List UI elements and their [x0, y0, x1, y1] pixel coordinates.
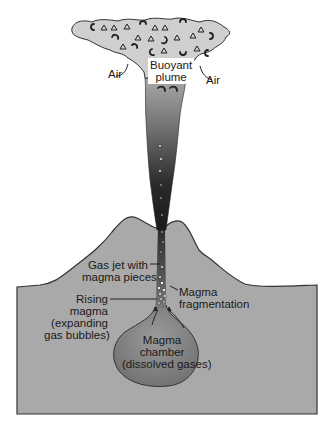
- label-line: magma pieces: [82, 271, 148, 283]
- label-line: Gas jet with: [82, 259, 148, 271]
- label-line: Magma: [122, 334, 202, 346]
- label-line: Buoyant: [150, 59, 192, 71]
- label-line: gas bubbles): [44, 329, 108, 341]
- gas-jet-label: Gas jet with magma pieces: [82, 259, 148, 283]
- label-line: (dissolved gases): [122, 358, 202, 370]
- label-line: (expanding: [44, 317, 108, 329]
- magma-fragmentation-label: Magma fragmentation: [179, 286, 249, 310]
- label-line: Magma: [179, 286, 249, 298]
- magma-chamber-label: Magma chamber (dissolved gases): [122, 334, 202, 370]
- rising-magma-label: Rising magma (expanding gas bubbles): [44, 293, 108, 341]
- buoyant-plume-label: Buoyant plume: [148, 58, 194, 84]
- label-line: chamber: [122, 346, 202, 358]
- label-line: plume: [150, 71, 192, 83]
- air-right-label: Air: [206, 74, 220, 86]
- eruption-column: [145, 78, 186, 230]
- label-line: Rising: [44, 293, 108, 305]
- volcano-eruption-diagram: Buoyant plume Air Air Gas jet with magma…: [0, 0, 336, 428]
- label-line: magma: [44, 305, 108, 317]
- label-line: fragmentation: [179, 298, 249, 310]
- air-left-label: Air: [108, 68, 122, 80]
